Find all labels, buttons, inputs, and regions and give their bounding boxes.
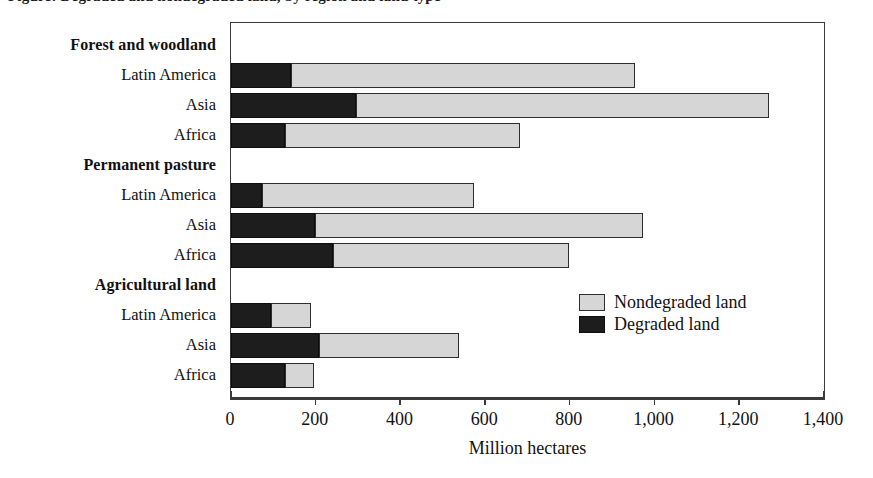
bar-forest-and-woodland-africa bbox=[231, 123, 520, 148]
category-label-permanent-pasture-latin-america: Latin America bbox=[0, 187, 216, 203]
x-tick-1000 bbox=[654, 398, 656, 405]
bar-segment-nondegraded bbox=[333, 243, 569, 268]
chart-figure: Figure: Degraded and nondegraded land, b… bbox=[0, 0, 873, 478]
bar-segment-nondegraded bbox=[271, 303, 312, 328]
bar-agricultural-land-asia bbox=[231, 333, 459, 358]
bar-segment-degraded bbox=[231, 243, 333, 268]
x-tick-600 bbox=[484, 398, 486, 405]
bar-forest-and-woodland-latin-america bbox=[231, 63, 635, 88]
bar-segment-degraded bbox=[231, 93, 356, 118]
x-tick-label-1000: 1,000 bbox=[633, 408, 674, 430]
bar-segment-degraded bbox=[231, 363, 285, 388]
figure-title: Figure: Degraded and nondegraded land, b… bbox=[0, 0, 873, 4]
bar-permanent-pasture-africa bbox=[231, 243, 569, 268]
x-tick-1200 bbox=[738, 398, 740, 405]
group-label-permanent-pasture: Permanent pasture bbox=[0, 157, 216, 173]
bar-segment-degraded bbox=[231, 213, 315, 238]
plot-area: Nondegraded landDegraded land bbox=[230, 22, 825, 398]
category-label-forest-and-woodland-asia: Asia bbox=[0, 97, 216, 113]
category-label-forest-and-woodland-africa: Africa bbox=[0, 127, 216, 143]
x-tick-label-0: 0 bbox=[226, 408, 235, 430]
category-label-agricultural-land-asia: Asia bbox=[0, 337, 216, 353]
category-label-permanent-pasture-asia: Asia bbox=[0, 217, 216, 233]
legend-label-degraded: Degraded land bbox=[614, 314, 719, 334]
group-label-forest-and-woodland: Forest and woodland bbox=[0, 37, 216, 53]
bar-segment-nondegraded bbox=[285, 363, 314, 388]
x-tick-label-800: 800 bbox=[555, 408, 582, 430]
x-axis-left-cap bbox=[230, 391, 232, 400]
bar-segment-nondegraded bbox=[319, 333, 459, 358]
legend-item-degraded[interactable]: Degraded land bbox=[579, 313, 819, 335]
legend-swatch-degraded-icon bbox=[579, 316, 605, 333]
x-axis-title: Million hectares bbox=[230, 437, 825, 459]
category-label-column: Forest and woodlandLatin AmericaAsiaAfri… bbox=[0, 22, 216, 398]
bar-segment-degraded bbox=[231, 303, 271, 328]
bar-permanent-pasture-asia bbox=[231, 213, 643, 238]
bar-segment-nondegraded bbox=[285, 123, 520, 148]
legend-label-nondegraded: Nondegraded land bbox=[614, 292, 746, 312]
bar-agricultural-land-africa bbox=[231, 363, 314, 388]
category-label-agricultural-land-africa: Africa bbox=[0, 367, 216, 383]
bar-segment-degraded bbox=[231, 183, 262, 208]
x-tick-400 bbox=[399, 398, 401, 405]
x-tick-label-1200: 1,200 bbox=[718, 408, 759, 430]
category-label-forest-and-woodland-latin-america: Latin America bbox=[0, 67, 216, 83]
legend-swatch-nondegraded-icon bbox=[579, 294, 605, 311]
legend-item-nondegraded[interactable]: Nondegraded land bbox=[579, 291, 819, 313]
bar-forest-and-woodland-asia bbox=[231, 93, 769, 118]
bar-permanent-pasture-latin-america bbox=[231, 183, 474, 208]
x-tick-label-600: 600 bbox=[471, 408, 498, 430]
bar-segment-nondegraded bbox=[315, 213, 643, 238]
category-label-agricultural-land-latin-america: Latin America bbox=[0, 307, 216, 323]
group-label-agricultural-land: Agricultural land bbox=[0, 277, 216, 293]
x-tick-label-400: 400 bbox=[386, 408, 413, 430]
bar-segment-nondegraded bbox=[262, 183, 474, 208]
bar-segment-nondegraded bbox=[356, 93, 769, 118]
bar-segment-degraded bbox=[231, 123, 285, 148]
bar-segment-nondegraded bbox=[291, 63, 636, 88]
chart-legend: Nondegraded landDegraded land bbox=[579, 291, 819, 335]
x-tick-200 bbox=[315, 398, 317, 405]
bar-agricultural-land-latin-america bbox=[231, 303, 311, 328]
x-axis-line bbox=[230, 398, 825, 400]
bar-segment-degraded bbox=[231, 333, 319, 358]
x-tick-label-200: 200 bbox=[301, 408, 328, 430]
x-axis-right-cap bbox=[823, 391, 825, 400]
x-tick-800 bbox=[569, 398, 571, 405]
bar-segment-degraded bbox=[231, 63, 291, 88]
x-tick-label-1400: 1,400 bbox=[803, 408, 844, 430]
category-label-permanent-pasture-africa: Africa bbox=[0, 247, 216, 263]
figure-title-text: Figure: Degraded and nondegraded land, b… bbox=[0, 0, 873, 4]
